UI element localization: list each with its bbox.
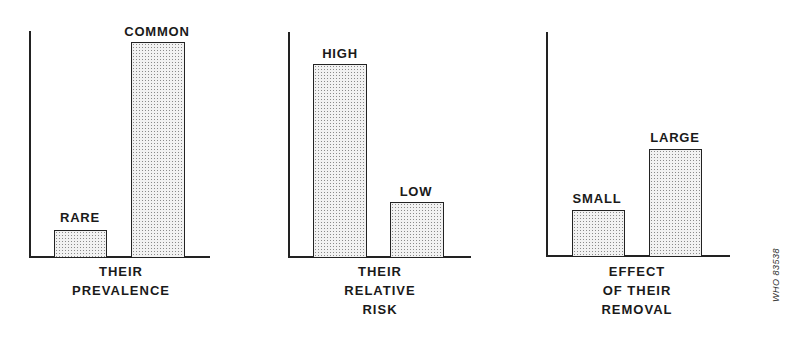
- x-axis-label-line: REMOVAL: [601, 300, 672, 319]
- bar-small: [572, 210, 625, 256]
- x-axis-label-line: OF THEIR: [601, 281, 672, 300]
- x-axis-label-line: EFFECT: [601, 262, 672, 281]
- bar-label-large: LARGE: [650, 131, 700, 145]
- x-axis-label: EFFECT OF THEIR REMOVAL: [601, 262, 672, 319]
- bar-large: [649, 149, 702, 256]
- bar-label-small: SMALL: [573, 192, 622, 206]
- chart-effect-of-removal: SMALL LARGE EFFECT OF THEIR REMOVAL: [0, 0, 796, 338]
- y-axis: [546, 32, 548, 257]
- figure-code: WHO 83538: [771, 248, 781, 302]
